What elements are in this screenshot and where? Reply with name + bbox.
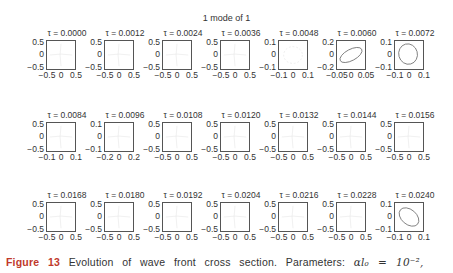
subplot-panel: τ = 0.01680.50−0.5−0.500.5 — [24, 190, 86, 254]
caption-param: αl₀ = 10⁻², — [354, 256, 424, 268]
caption-label: Figure — [6, 256, 39, 268]
subplot-title: τ = 0.0072 — [388, 28, 442, 38]
plot-area — [336, 122, 366, 152]
plot-area — [46, 122, 76, 152]
subplot-panel: τ = 0.00720.10−0.1−0.100.1 — [372, 28, 434, 92]
y-tick-mid: 0 — [254, 211, 276, 221]
y-tick-mid: 0 — [196, 211, 218, 221]
subplot-panel: τ = 0.01440.50−0.5−0.500.5 — [314, 110, 376, 174]
y-tick-mid: 0 — [196, 131, 218, 141]
y-tick-top: 0.5 — [196, 199, 218, 209]
subplot-panel: τ = 0.00480.10−0.1−0.100.1 — [256, 28, 318, 92]
subplot-title: τ = 0.0156 — [388, 110, 442, 120]
x-tick-right: 0.5 — [413, 152, 435, 162]
y-tick-top: 0.1 — [80, 119, 102, 129]
y-tick-mid: 0 — [138, 49, 160, 59]
y-tick-top: 0.1 — [254, 37, 276, 47]
y-tick-mid: 0 — [138, 211, 160, 221]
subplot-panel: τ = 0.00240.50−0.5−0.500.5 — [140, 28, 202, 92]
y-tick-mid: 0 — [370, 211, 392, 221]
plot-area — [104, 40, 134, 70]
subplot-panel: τ = 0.01080.50−0.5−0.500.5 — [140, 110, 202, 174]
x-tick-right: 0.1 — [413, 70, 435, 80]
figure-caption: Figure 13 Evolution of wave front cross … — [6, 256, 451, 268]
y-tick-top: 0.5 — [312, 119, 334, 129]
y-tick-top: 0.1 — [370, 199, 392, 209]
plot-area — [278, 40, 308, 70]
plot-area — [394, 40, 424, 70]
y-tick-top: 0.5 — [22, 199, 44, 209]
plot-area — [336, 40, 366, 70]
plot-area — [162, 202, 192, 232]
y-tick-mid: 0 — [312, 211, 334, 221]
y-tick-top: 0.5 — [254, 119, 276, 129]
y-tick-top: 0.5 — [138, 199, 160, 209]
y-tick-top: 0.5 — [22, 119, 44, 129]
y-tick-mid: 0 — [254, 131, 276, 141]
plot-area — [394, 202, 424, 232]
y-tick-mid: 0 — [80, 211, 102, 221]
y-tick-mid: 0 — [80, 131, 102, 141]
subplot-panel: τ = 0.02280.50−0.5−0.500.5 — [314, 190, 376, 254]
subplot-panel: τ = 0.00360.50−0.5−0.500.5 — [198, 28, 260, 92]
plot-area — [394, 122, 424, 152]
plot-area — [104, 202, 134, 232]
subplot-panel: τ = 0.00600.20−0.2−0.0500.05 — [314, 28, 376, 92]
plot-area — [162, 40, 192, 70]
plot-area — [220, 202, 250, 232]
y-tick-top: 0.5 — [370, 119, 392, 129]
y-tick-mid: 0 — [22, 49, 44, 59]
plot-area — [162, 122, 192, 152]
figure-suptitle: 1 mode of 1 — [0, 13, 453, 23]
caption-text: Evolution of wave front cross section. P… — [69, 256, 345, 268]
subplot-title: τ = 0.0240 — [388, 190, 442, 200]
plot-area — [104, 122, 134, 152]
plot-area — [278, 202, 308, 232]
plot-area — [278, 122, 308, 152]
y-tick-top: 0.5 — [312, 199, 334, 209]
plot-area — [220, 40, 250, 70]
y-tick-mid: 0 — [138, 131, 160, 141]
x-tick-right: 0.1 — [413, 232, 435, 242]
y-tick-mid: 0 — [22, 211, 44, 221]
subplot-panel: τ = 0.00000.50−0.5−0.500.5 — [24, 28, 86, 92]
subplot-panel: τ = 0.01560.50−0.5−0.500.5 — [372, 110, 434, 174]
y-tick-mid: 0 — [312, 131, 334, 141]
plot-area — [336, 202, 366, 232]
y-tick-mid: 0 — [80, 49, 102, 59]
y-tick-top: 0.1 — [370, 37, 392, 47]
y-tick-top: 0.5 — [22, 37, 44, 47]
caption-number: 13 — [48, 256, 60, 268]
subplot-panel: τ = 0.02160.50−0.5−0.500.5 — [256, 190, 318, 254]
y-tick-mid: 0 — [22, 131, 44, 141]
y-tick-mid: 0 — [196, 49, 218, 59]
y-tick-mid: 0 — [254, 49, 276, 59]
subplot-panel: τ = 0.01200.50−0.5−0.500.5 — [198, 110, 260, 174]
y-tick-top: 0.5 — [80, 37, 102, 47]
subplot-panel: τ = 0.00120.50−0.5−0.500.5 — [82, 28, 144, 92]
plot-area — [220, 122, 250, 152]
y-tick-top: 0.2 — [312, 37, 334, 47]
subplot-panel: τ = 0.00840.50−0.5−0.100.1 — [24, 110, 86, 174]
y-tick-top: 0.5 — [138, 119, 160, 129]
y-tick-top: 0.5 — [254, 199, 276, 209]
y-tick-mid: 0 — [370, 131, 392, 141]
plot-area — [46, 40, 76, 70]
y-tick-top: 0.5 — [196, 37, 218, 47]
subplot-panel: τ = 0.01920.50−0.5−0.500.5 — [140, 190, 202, 254]
subplot-panel: τ = 0.01800.50−0.5−0.500.5 — [82, 190, 144, 254]
subplot-panel: τ = 0.02400.10−0.1−0.100.1 — [372, 190, 434, 254]
y-tick-top: 0.5 — [80, 199, 102, 209]
subplot-panel: τ = 0.01320.50−0.5−0.500.5 — [256, 110, 318, 174]
y-tick-top: 0.5 — [138, 37, 160, 47]
subplot-panel: τ = 0.02040.50−0.5−0.500.5 — [198, 190, 260, 254]
y-tick-mid: 0 — [370, 49, 392, 59]
plot-area — [46, 202, 76, 232]
y-tick-top: 0.5 — [196, 119, 218, 129]
subplot-panel: τ = 0.00960.10−0.1−0.200.2 — [82, 110, 144, 174]
y-tick-mid: 0 — [312, 49, 334, 59]
